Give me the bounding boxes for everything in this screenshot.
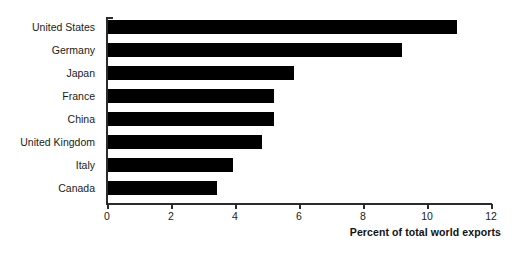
category-label: Italy xyxy=(1,158,95,172)
category-label: Germany xyxy=(1,43,95,57)
bar xyxy=(108,112,274,126)
x-tick-label: 12 xyxy=(476,210,506,222)
x-axis-title: Percent of total world exports xyxy=(350,226,501,238)
y-axis-top-cap xyxy=(106,17,113,19)
bar-row: Germany xyxy=(0,43,527,57)
x-tick xyxy=(235,204,237,209)
bar-row: Italy xyxy=(0,158,527,172)
x-tick-label: 8 xyxy=(348,210,378,222)
category-label: Japan xyxy=(1,66,95,80)
bar-row: France xyxy=(0,89,527,103)
x-tick xyxy=(107,204,109,209)
bar xyxy=(108,66,294,80)
x-tick-label: 4 xyxy=(220,210,250,222)
x-tick xyxy=(171,204,173,209)
bar-row: Japan xyxy=(0,66,527,80)
x-tick xyxy=(427,204,429,209)
bar xyxy=(108,89,274,103)
bar xyxy=(108,43,402,57)
bar xyxy=(108,158,233,172)
x-tick xyxy=(363,204,365,209)
bar xyxy=(108,20,457,34)
x-tick xyxy=(491,204,493,209)
x-tick-label: 10 xyxy=(412,210,442,222)
bar-chart: United StatesGermanyJapanFranceChinaUnit… xyxy=(0,0,527,254)
category-label: China xyxy=(1,112,95,126)
bar xyxy=(108,181,217,195)
bar-row: United States xyxy=(0,20,527,34)
x-tick-label: 6 xyxy=(284,210,314,222)
x-tick-label: 2 xyxy=(156,210,186,222)
category-label: United Kingdom xyxy=(1,135,95,149)
bar-row: United Kingdom xyxy=(0,135,527,149)
category-label: United States xyxy=(1,20,95,34)
category-label: Canada xyxy=(1,181,95,195)
x-tick xyxy=(299,204,301,209)
bar xyxy=(108,135,262,149)
bar-row: China xyxy=(0,112,527,126)
category-label: France xyxy=(1,89,95,103)
bar-row: Canada xyxy=(0,181,527,195)
x-tick-label: 0 xyxy=(92,210,122,222)
